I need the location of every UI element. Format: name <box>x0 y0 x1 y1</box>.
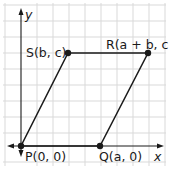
label-s: S(b, c) <box>26 45 66 60</box>
label-p: P(0, 0) <box>25 149 66 164</box>
grid <box>3 3 166 166</box>
y-axis-label: y <box>24 7 33 22</box>
x-axis-arrow-left-icon <box>7 144 14 149</box>
x-axis-arrow-right-icon <box>157 144 164 149</box>
coordinate-plane-diagram: y x S(b, c) R(a + b, c) P(0, 0) Q(a, 0) <box>0 0 169 170</box>
label-r: R(a + b, c) <box>106 37 169 52</box>
point-p <box>18 143 24 149</box>
y-axis-arrow-up-icon <box>19 8 24 15</box>
label-q: Q(a, 0) <box>99 149 142 164</box>
y-axis-arrow-down-icon <box>19 150 24 157</box>
x-axis-label: x <box>153 149 162 164</box>
